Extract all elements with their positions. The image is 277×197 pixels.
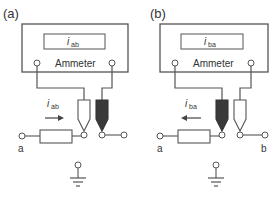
display-subscript: ba <box>208 41 216 48</box>
panel-b: (b) i ba Ammeter i ba a b <box>150 6 268 186</box>
ground-icon <box>70 178 86 186</box>
probe-node-1 <box>219 132 225 138</box>
terminal-right <box>109 60 115 66</box>
ground-node <box>213 162 219 168</box>
probe-node-2 <box>237 132 243 138</box>
node-a <box>19 133 25 139</box>
probe-node-1 <box>81 132 87 138</box>
node-a-label: a <box>18 143 24 154</box>
arrow-left-icon <box>181 115 187 121</box>
node-b <box>262 132 268 138</box>
current-subscript: ba <box>189 103 197 110</box>
current-subscript: ab <box>51 103 59 110</box>
node-a <box>157 133 163 139</box>
probe-light <box>78 100 90 131</box>
ammeter-diagram: (a) i ab Ammeter i ab a <box>0 0 277 197</box>
probe-dark <box>96 100 108 131</box>
probe-light <box>234 100 246 131</box>
display-subscript: ab <box>71 41 79 48</box>
probe-dark <box>216 100 228 131</box>
panel-label-a: (a) <box>3 6 19 21</box>
ground-node <box>75 162 81 168</box>
node-a-label: a <box>157 143 163 154</box>
terminal-right <box>248 60 254 66</box>
resistor <box>178 130 210 143</box>
terminal-left <box>172 60 178 66</box>
ground-icon <box>208 178 224 186</box>
ammeter-label: Ammeter <box>193 58 234 69</box>
ammeter-label: Ammeter <box>55 58 96 69</box>
panel-a: (a) i ab Ammeter i ab a <box>3 6 128 186</box>
panel-label-b: (b) <box>150 6 166 21</box>
probe-node-2 <box>99 132 105 138</box>
node-right <box>121 132 127 138</box>
arrow-right-icon <box>58 115 64 121</box>
resistor <box>40 130 72 143</box>
current-symbol: i <box>185 98 188 109</box>
node-b-label: b <box>261 143 267 154</box>
terminal-left <box>34 60 40 66</box>
current-symbol: i <box>47 98 50 109</box>
